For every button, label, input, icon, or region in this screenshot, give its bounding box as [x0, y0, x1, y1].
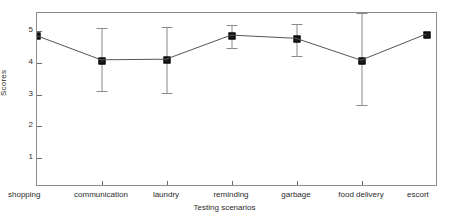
error-bar-cap-upper: [357, 13, 368, 14]
error-bar-cap-lower: [292, 56, 303, 57]
chart-figure: 12345 shoppingcommunicationlaundryremind…: [0, 0, 449, 221]
x-tick-mark: [297, 181, 298, 186]
data-point-marker: [229, 33, 236, 40]
x-tick-mark: [232, 181, 233, 186]
y-tick-mark: [37, 95, 42, 96]
y-tick-mark: [37, 158, 42, 159]
y-tick-mark: [37, 31, 42, 32]
error-bar-cap-upper: [162, 27, 173, 28]
y-axis-title: Scores: [0, 70, 8, 96]
x-tick-label: communication: [74, 190, 128, 199]
data-point-marker: [36, 33, 41, 40]
error-bar-cap-lower: [97, 91, 108, 92]
y-tick-label: 4: [25, 58, 33, 66]
error-bar-cap-upper: [227, 25, 238, 26]
error-bar-cap-upper: [97, 28, 108, 29]
data-point-marker: [424, 32, 431, 39]
x-tick-label: shopping: [8, 190, 40, 199]
data-point-marker: [294, 36, 301, 43]
x-tick-label: escort: [407, 190, 429, 199]
error-bar-cap-lower: [227, 48, 238, 49]
y-tick-mark: [37, 126, 42, 127]
data-point-marker: [359, 58, 366, 65]
y-tick-label: 5: [25, 26, 33, 34]
plot-area: [36, 12, 437, 186]
error-bar-cap-upper: [292, 24, 303, 25]
data-point-marker: [164, 57, 171, 64]
x-tick-label: reminding: [213, 190, 248, 199]
y-tick-label: 1: [25, 153, 33, 161]
x-tick-label: laundry: [153, 190, 179, 199]
x-tick-label: garbage: [281, 190, 310, 199]
y-tick-label: 2: [25, 121, 33, 129]
y-tick-mark: [37, 63, 42, 64]
y-tick-label: 3: [25, 90, 33, 98]
x-axis-title: Testing scenarios: [0, 203, 449, 212]
error-bar-cap-lower: [162, 93, 173, 94]
x-tick-mark: [102, 181, 103, 186]
data-point-marker: [99, 57, 106, 64]
x-tick-mark: [362, 181, 363, 186]
error-bar-cap-lower: [357, 105, 368, 106]
x-tick-mark: [167, 181, 168, 186]
x-tick-label: food delivery: [338, 190, 383, 199]
